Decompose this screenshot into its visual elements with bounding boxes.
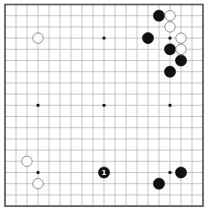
black-stone-icon	[153, 10, 164, 21]
black-stone-icon	[175, 55, 186, 66]
black-stone-icon	[142, 33, 153, 44]
black-stone[interactable]	[175, 55, 186, 66]
black-stone[interactable]	[164, 44, 175, 55]
white-stone-icon	[165, 11, 175, 21]
black-stone[interactable]	[142, 33, 153, 44]
black-stone[interactable]	[175, 167, 186, 178]
star-point	[103, 104, 106, 107]
white-stone[interactable]	[22, 156, 32, 166]
star-point	[37, 104, 40, 107]
black-stone-icon	[164, 66, 175, 77]
white-stone[interactable]	[176, 44, 186, 54]
go-board[interactable]: 1	[0, 0, 208, 212]
white-stone-icon	[176, 33, 186, 43]
star-point	[169, 104, 172, 107]
white-stone-icon	[33, 33, 43, 43]
white-stone[interactable]	[33, 33, 43, 43]
black-stone[interactable]	[153, 178, 164, 189]
star-point	[37, 171, 40, 174]
black-stone-icon	[175, 167, 186, 178]
white-stone[interactable]	[176, 33, 186, 43]
black-stone[interactable]	[153, 10, 164, 21]
white-stone[interactable]	[33, 179, 43, 189]
white-stone[interactable]	[165, 11, 175, 21]
star-point	[169, 171, 172, 174]
black-stone[interactable]: 1	[98, 167, 109, 178]
white-stone-icon	[22, 156, 32, 166]
star-point	[169, 37, 172, 40]
white-stone-icon	[165, 22, 175, 32]
go-board-canvas[interactable]: 1	[0, 0, 208, 212]
black-stone-icon	[164, 44, 175, 55]
white-stone-icon	[33, 179, 43, 189]
star-point	[103, 37, 106, 40]
black-stone[interactable]	[164, 66, 175, 77]
white-stone-icon	[176, 44, 186, 54]
black-stone-icon	[153, 178, 164, 189]
white-stone[interactable]	[165, 22, 175, 32]
move-number-label: 1	[102, 169, 107, 177]
